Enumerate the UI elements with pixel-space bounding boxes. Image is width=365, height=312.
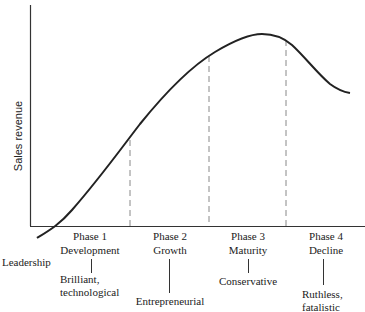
- phase-2-leadership: Entrepreneurial: [130, 295, 210, 308]
- phase-4-connector: [323, 259, 324, 285]
- sales-revenue-curve: [37, 34, 350, 238]
- phase-4-label: Phase 4: [296, 230, 356, 243]
- phase-3-label: Phase 3: [218, 230, 278, 243]
- phase-4-name: Decline: [296, 244, 356, 257]
- phase-3-leadership: Conservative: [208, 275, 288, 288]
- phase-2-label: Phase 2: [140, 230, 200, 243]
- phase-1-leadership: Brilliant, technological: [60, 273, 119, 299]
- life-cycle-chart: [0, 0, 365, 312]
- leadership-row-label: Leadership: [2, 256, 51, 269]
- phase-1-label: Phase 1: [60, 230, 120, 243]
- phase-3-connector: [248, 259, 249, 273]
- phase-2-connector: [169, 259, 170, 293]
- phase-2-name: Growth: [140, 244, 200, 257]
- phase-3-name: Maturity: [218, 244, 278, 257]
- phase-1-name: Development: [55, 244, 125, 257]
- y-axis-label: Sales revenue: [12, 96, 24, 176]
- phase-1-connector: [91, 259, 92, 273]
- phase-4-leadership: Ruthless, fatalistic: [302, 288, 343, 312]
